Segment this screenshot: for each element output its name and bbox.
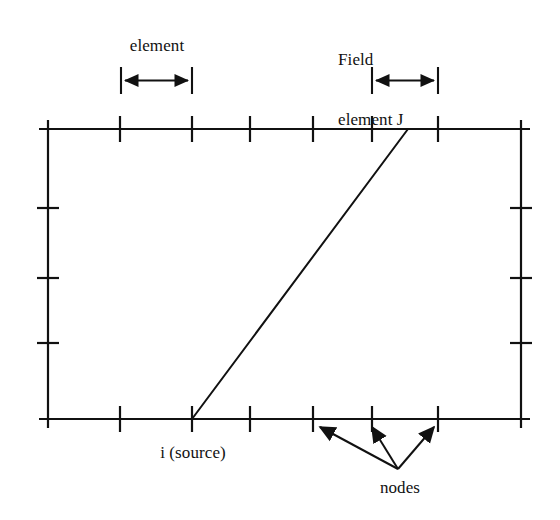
nodes-leader-line bbox=[320, 427, 398, 469]
field-element-label: Field element J bbox=[338, 10, 464, 170]
element-dimension-indicator bbox=[121, 67, 192, 94]
nodes-leader-lines bbox=[320, 427, 434, 469]
diagram-graphics bbox=[0, 0, 560, 520]
element-label: element bbox=[107, 36, 207, 56]
source-node-label: i (source) bbox=[132, 443, 254, 463]
nodes-label: nodes bbox=[352, 478, 448, 498]
field-element-label-line1: Field bbox=[338, 50, 464, 70]
nodes-leader-line bbox=[398, 427, 434, 469]
source-to-field-diagonal bbox=[192, 129, 408, 419]
field-element-label-line2: element J bbox=[338, 110, 464, 130]
diagram-canvas: element Field element J i (source) nodes bbox=[0, 0, 560, 520]
